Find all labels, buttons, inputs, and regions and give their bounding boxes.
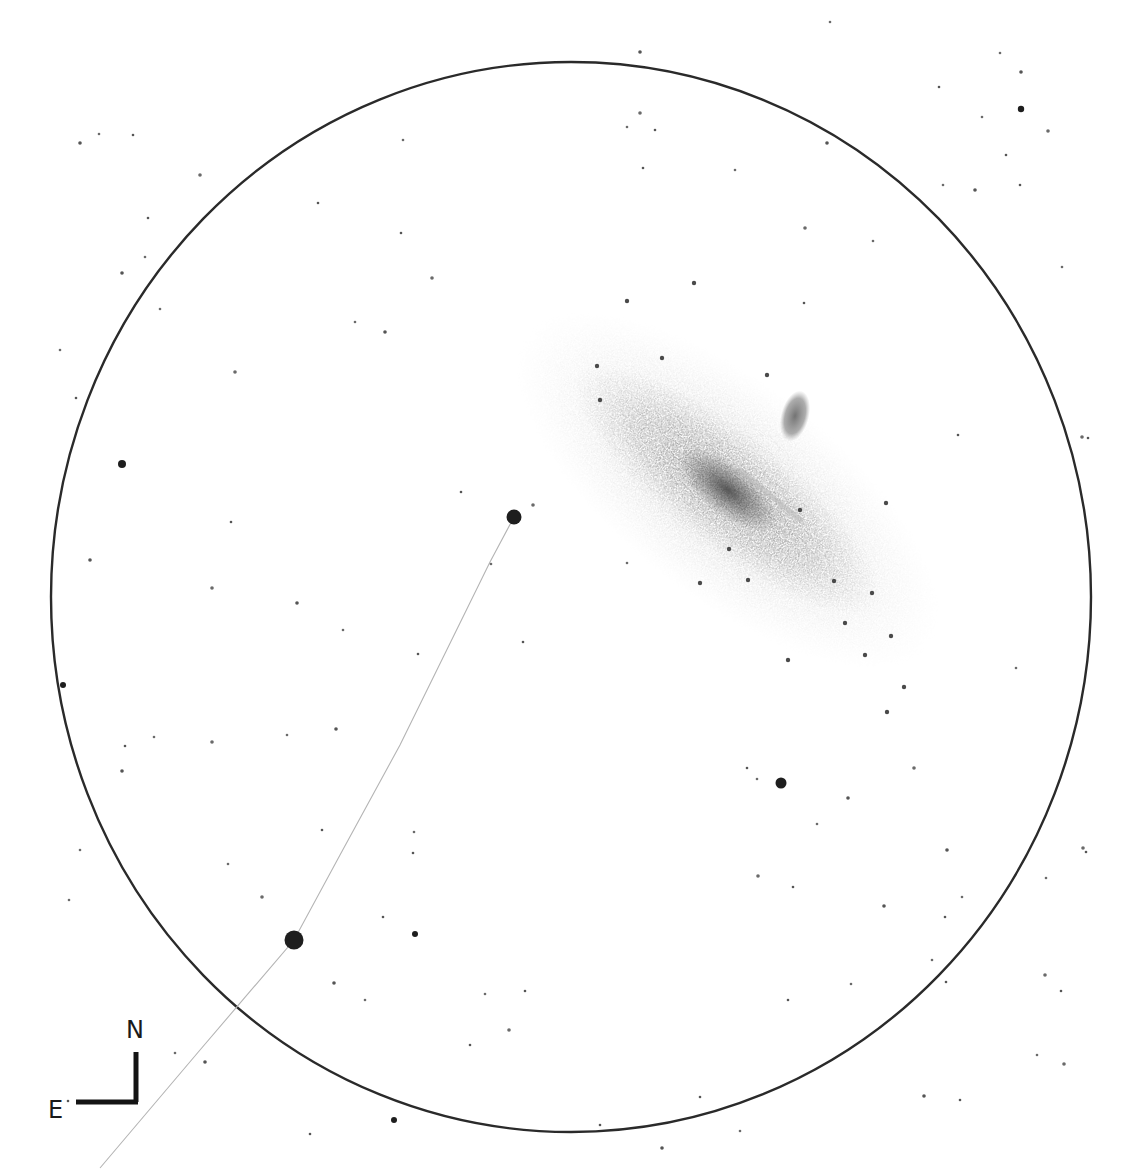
faint-star xyxy=(944,916,947,919)
faint-star xyxy=(334,727,338,731)
faint-star xyxy=(286,734,289,737)
faint-star xyxy=(850,983,853,986)
galaxy-field-star xyxy=(863,653,867,657)
faint-star xyxy=(75,397,78,400)
faint-star xyxy=(317,202,320,205)
faint-star xyxy=(67,1100,70,1103)
faint-star xyxy=(642,167,645,170)
faint-star xyxy=(626,126,629,129)
faint-star xyxy=(460,491,463,494)
faint-star xyxy=(912,766,916,770)
faint-star xyxy=(382,916,385,919)
faint-star xyxy=(132,134,135,137)
faint-star xyxy=(787,999,790,1002)
galaxy-field-star xyxy=(889,634,893,638)
galaxy-field-star xyxy=(902,685,906,689)
faint-star xyxy=(1046,129,1050,133)
faint-star xyxy=(88,558,92,562)
galaxy-field-star xyxy=(786,658,790,662)
faint-star xyxy=(531,503,535,507)
faint-star xyxy=(230,521,233,524)
andromeda-galaxy xyxy=(461,248,996,732)
faint-star xyxy=(402,139,405,142)
faint-star xyxy=(295,601,299,605)
bright-star xyxy=(285,931,304,950)
faint-star xyxy=(198,173,202,177)
faint-star xyxy=(872,240,875,243)
faint-star xyxy=(490,563,493,566)
bright-star xyxy=(412,931,418,937)
faint-star xyxy=(1060,990,1063,993)
east-label: E xyxy=(48,1098,63,1122)
faint-star xyxy=(938,86,941,89)
faint-star xyxy=(599,1124,602,1127)
faint-star xyxy=(364,999,367,1002)
galaxy-field-star xyxy=(625,299,629,303)
galaxy-field-star xyxy=(832,579,836,583)
faint-star xyxy=(507,1028,511,1032)
faint-star xyxy=(120,769,124,773)
faint-star xyxy=(1081,846,1085,850)
faint-star xyxy=(98,133,101,136)
faint-star xyxy=(153,736,156,739)
faint-star xyxy=(469,1044,472,1047)
faint-star xyxy=(699,1096,702,1099)
faint-star xyxy=(999,52,1002,55)
galaxy-field-star xyxy=(698,581,702,585)
faint-star xyxy=(413,831,416,834)
faint-star xyxy=(124,745,127,748)
faint-star xyxy=(816,823,819,826)
faint-star xyxy=(803,302,806,305)
faint-star xyxy=(227,863,230,866)
faint-star xyxy=(1062,1062,1066,1066)
faint-star xyxy=(1036,1054,1039,1057)
bright-star xyxy=(1018,106,1024,112)
faint-star xyxy=(342,629,345,632)
faint-star xyxy=(174,1052,177,1055)
faint-star xyxy=(942,184,945,187)
galaxy-field-star xyxy=(598,398,602,402)
galaxy-field-star xyxy=(765,373,769,377)
faint-star xyxy=(159,308,162,311)
faint-star xyxy=(756,778,759,781)
faint-star xyxy=(68,899,71,902)
faint-star xyxy=(147,217,150,220)
galaxy-field-star xyxy=(870,591,874,595)
faint-star xyxy=(1045,877,1048,880)
star-hop-guide-line xyxy=(100,517,514,1168)
faint-star xyxy=(882,904,886,908)
faint-star xyxy=(309,1133,312,1136)
galaxy-field-star xyxy=(798,508,802,512)
faint-star xyxy=(734,169,737,172)
galaxy-field-star xyxy=(885,710,889,714)
faint-star xyxy=(746,767,749,770)
faint-star xyxy=(922,1094,926,1098)
bright-star xyxy=(391,1117,397,1123)
faint-star xyxy=(321,829,324,832)
faint-star xyxy=(412,852,415,855)
eyepiece-sketch xyxy=(0,0,1133,1173)
faint-star xyxy=(756,874,760,878)
faint-star xyxy=(210,586,214,590)
faint-star xyxy=(931,959,934,962)
faint-star xyxy=(825,141,829,145)
faint-star xyxy=(522,641,525,644)
faint-star xyxy=(945,981,948,984)
faint-star xyxy=(417,653,420,656)
faint-star xyxy=(803,226,807,230)
galaxy-field-star xyxy=(660,356,664,360)
faint-star xyxy=(332,981,336,985)
compass-rose xyxy=(76,1052,138,1102)
bright-star xyxy=(118,460,126,468)
faint-star xyxy=(981,116,984,119)
faint-star xyxy=(354,321,357,324)
bright-star xyxy=(60,682,66,688)
faint-star xyxy=(144,256,147,259)
faint-star xyxy=(846,796,850,800)
faint-star xyxy=(660,1146,664,1150)
faint-star xyxy=(430,276,434,280)
bright-star xyxy=(507,510,522,525)
faint-star xyxy=(59,349,62,352)
galaxy-field-star xyxy=(884,501,888,505)
faint-star xyxy=(654,129,657,132)
